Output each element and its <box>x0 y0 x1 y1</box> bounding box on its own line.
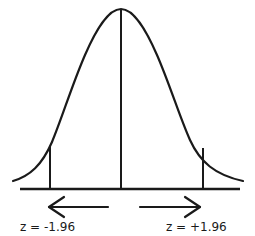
bell-curve <box>13 9 243 181</box>
arrow-right-icon <box>140 197 200 217</box>
right-critical-value-label: z = +1.96 <box>166 220 227 234</box>
arrow-left-icon <box>49 197 108 217</box>
normal-curve-diagram <box>0 0 255 236</box>
left-critical-value-label: z = -1.96 <box>20 220 75 234</box>
